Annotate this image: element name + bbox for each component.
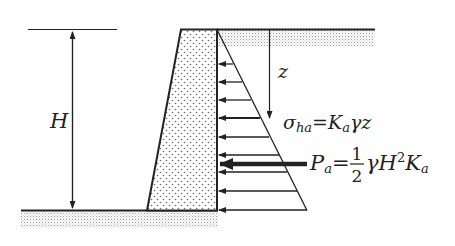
retaining-wall-diagram: H z σha=Kaγz Pa= 1 2 γH2Ka [0, 0, 455, 246]
stress-formula: σha=Kaγz [283, 111, 372, 135]
fraction-denominator: 2 [352, 166, 363, 186]
foundation-ground [21, 211, 218, 229]
force-formula: Pa= 1 2 γH2Ka [309, 144, 429, 186]
fraction-numerator: 1 [352, 144, 363, 164]
height-label: H [49, 109, 69, 133]
backfill-surface [217, 30, 375, 48]
depth-label: z [277, 60, 289, 82]
svg-text:γH2Ka: γH2Ka [366, 150, 429, 176]
retaining-wall [147, 30, 217, 211]
height-dimension [28, 30, 117, 209]
svg-text:Pa=: Pa= [309, 151, 350, 176]
